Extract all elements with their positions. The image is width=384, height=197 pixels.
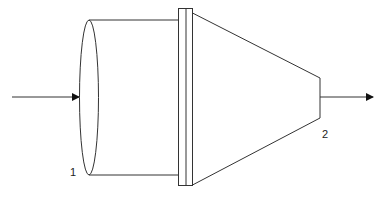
nozzle-diagram: 1 2	[0, 0, 384, 197]
outlet-label: 2	[322, 128, 328, 140]
inlet-label: 1	[70, 166, 76, 178]
cone-section	[193, 13, 321, 185]
inlet-ellipse	[80, 20, 99, 175]
